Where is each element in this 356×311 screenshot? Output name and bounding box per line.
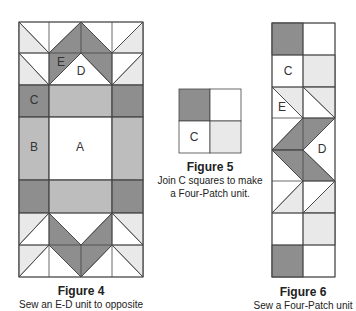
patch-label-e: E bbox=[278, 100, 286, 114]
figure-6-caption-text: Sew a Four-Patch unit bbox=[240, 299, 356, 311]
figure-6-title: Figure 6 bbox=[240, 285, 356, 299]
figure-4-caption-text: Sew an E-D unit to opposite bbox=[0, 298, 162, 311]
patch-label-b: B bbox=[30, 140, 38, 154]
figure-5-title: Figure 5 bbox=[150, 160, 270, 174]
patch-label-e: E bbox=[57, 55, 65, 69]
figure-4-title: Figure 4 bbox=[0, 284, 162, 298]
patch-label-c: C bbox=[30, 93, 39, 107]
patch-label-c: C bbox=[284, 64, 293, 78]
patch-label-a: A bbox=[76, 140, 84, 154]
patch-label-d: D bbox=[318, 142, 327, 156]
figure-5-caption-line2: a Four-Patch unit. bbox=[150, 187, 270, 200]
patch-label-c: C bbox=[190, 130, 199, 144]
figure-5-caption-line1: Join C squares to make bbox=[150, 174, 270, 187]
figure-6-caption: Figure 6 Sew a Four-Patch unit bbox=[240, 285, 356, 311]
quilt-diagram: E D C B A C bbox=[0, 0, 356, 311]
patch-label-d: D bbox=[77, 64, 86, 78]
figure-5-caption: Figure 5 Join C squares to make a Four-P… bbox=[150, 160, 270, 200]
figure-5-four-patch bbox=[179, 89, 241, 153]
figure-4-caption: Figure 4 Sew an E-D unit to opposite bbox=[0, 284, 162, 311]
